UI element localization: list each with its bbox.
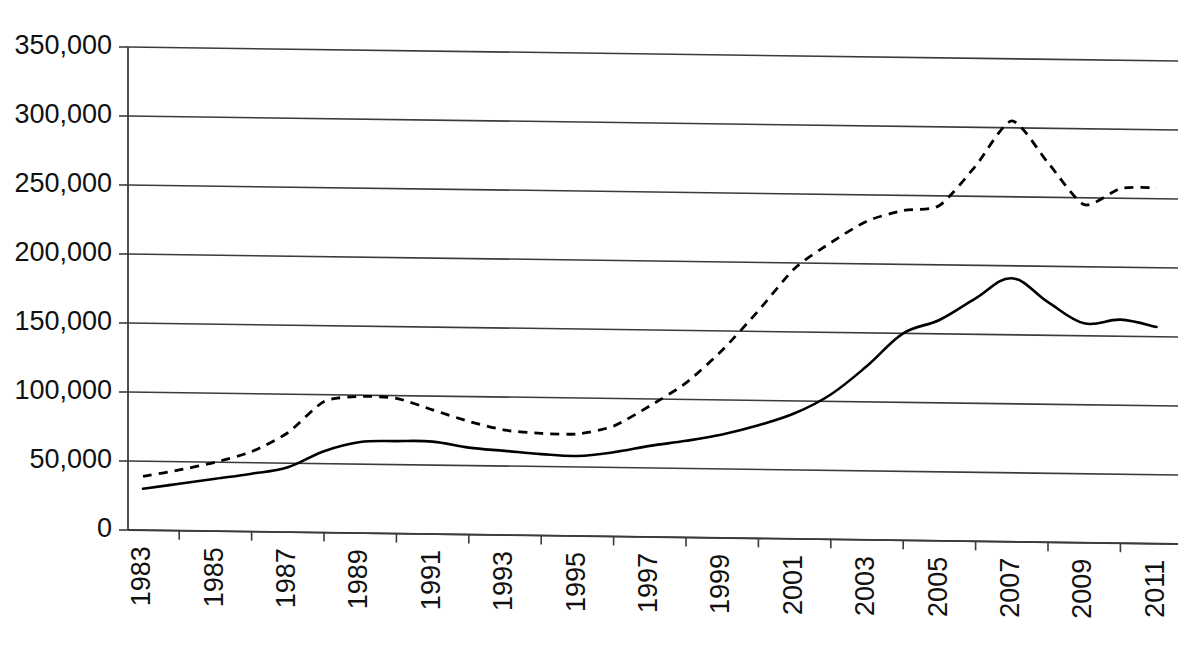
x-tick-label: 2003 [850, 556, 880, 616]
x-tick-label: 1983 [126, 546, 156, 606]
x-tick-label: 2009 [1067, 559, 1097, 619]
x-tick-label: 2005 [923, 557, 953, 617]
y-tick-label: 0 [97, 513, 112, 543]
chart-background [0, 0, 1190, 645]
x-tick-label: 1999 [705, 554, 735, 614]
x-tick-label: 2007 [995, 558, 1025, 618]
x-tick-label: 1985 [199, 547, 229, 607]
x-tick-label: 1997 [633, 553, 663, 613]
x-tick-label: 1991 [416, 550, 446, 610]
y-tick-label: 100,000 [14, 375, 112, 405]
x-tick-label: 1989 [343, 549, 373, 609]
x-tick-label: 1993 [488, 551, 518, 611]
y-tick-label: 350,000 [14, 30, 112, 60]
line-chart: 050,000100,000150,000200,000250,000300,0… [0, 0, 1190, 645]
y-tick-label: 200,000 [14, 237, 112, 267]
x-tick-label: 1987 [271, 548, 301, 608]
y-tick-label: 300,000 [14, 99, 112, 129]
x-tick-label: 2001 [778, 555, 808, 615]
x-tick-label: 1995 [561, 552, 591, 612]
chart-canvas: 050,000100,000150,000200,000250,000300,0… [0, 0, 1190, 645]
y-tick-label: 50,000 [29, 444, 112, 474]
x-tick-label: 2011 [1140, 560, 1170, 618]
y-tick-label: 250,000 [14, 168, 112, 198]
y-tick-label: 150,000 [14, 306, 112, 336]
